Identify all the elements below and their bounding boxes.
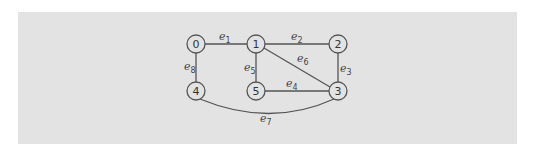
node-4: 4 (187, 82, 205, 100)
node-0: 0 (187, 35, 205, 53)
edge-label-e3: e3 (340, 62, 352, 77)
svg-text:0: 0 (193, 38, 200, 51)
node-2: 2 (329, 35, 347, 53)
edge-label-e8: e8 (184, 60, 196, 75)
edge-label-e5: e5 (244, 61, 256, 76)
graph-diagram: e1 e2 e3 e4 e5 e6 e7 e8 0 1 2 3 4 5 (0, 0, 534, 152)
svg-text:4: 4 (193, 85, 200, 98)
node-5: 5 (247, 82, 265, 100)
edge-label-e4: e4 (286, 77, 298, 92)
edge-label-e7: e7 (260, 112, 272, 127)
edge-e7 (200, 99, 334, 114)
svg-text:5: 5 (253, 85, 260, 98)
edge-label-e6: e6 (297, 52, 309, 67)
svg-text:3: 3 (335, 85, 342, 98)
edge-label-e2: e2 (291, 30, 303, 45)
node-3: 3 (329, 82, 347, 100)
edge-label-e1: e1 (219, 30, 231, 45)
node-1: 1 (247, 35, 265, 53)
svg-text:1: 1 (253, 38, 260, 51)
svg-text:2: 2 (335, 38, 342, 51)
